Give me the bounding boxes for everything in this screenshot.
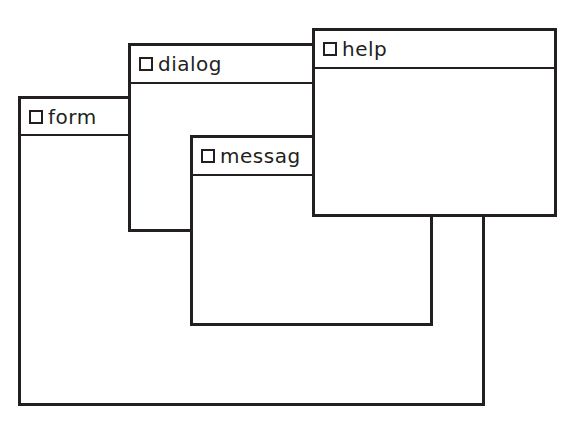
window-dialog-title: dialog xyxy=(158,54,222,74)
window-help-title: help xyxy=(342,39,387,59)
close-box-icon[interactable] xyxy=(201,149,215,163)
window-dialog-titlebar[interactable]: dialog xyxy=(131,46,335,84)
window-message-title: messag xyxy=(220,146,301,166)
window-form-title: form xyxy=(48,107,97,127)
window-help[interactable]: help xyxy=(312,28,557,217)
close-box-icon[interactable] xyxy=(323,42,337,56)
close-box-icon[interactable] xyxy=(29,110,43,124)
window-help-titlebar[interactable]: help xyxy=(315,31,554,69)
close-box-icon[interactable] xyxy=(139,57,153,71)
